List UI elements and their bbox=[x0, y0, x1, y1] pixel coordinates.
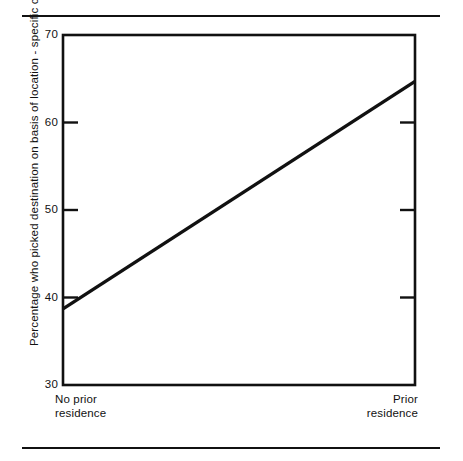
plot-frame bbox=[63, 35, 415, 385]
xtick-label-right-line2: residence bbox=[300, 406, 418, 420]
data-line-series-1 bbox=[63, 81, 415, 309]
y-axis-label: Percentage who picked destination on bas… bbox=[28, 16, 40, 346]
xtick-label-no-prior-residence: No prior residence bbox=[55, 392, 175, 420]
figure-container: 70 60 50 40 30 Percentage who picked des… bbox=[0, 0, 463, 461]
xtick-label-left-line1: No prior bbox=[55, 392, 175, 406]
ytick-label-30: 30 bbox=[30, 379, 58, 391]
xtick-label-prior-residence: Prior residence bbox=[300, 392, 418, 420]
xtick-label-left-line2: residence bbox=[55, 406, 175, 420]
xtick-label-right-line1: Prior bbox=[300, 392, 418, 406]
